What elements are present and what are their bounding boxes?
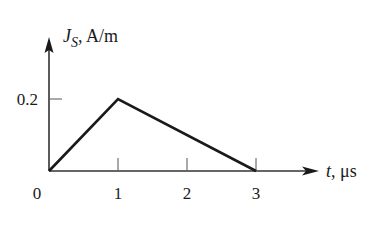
x-axis-label: t, μs [326,161,357,181]
y-axis-unit: , A/m [78,26,118,46]
x-tick-label-1: 1 [114,184,123,203]
y-axis-subscript: S [71,35,78,50]
x-tick-label-3: 3 [252,184,261,203]
y-axis-label: JS, A/m [63,26,118,50]
chart: 0 1 2 3 0.2 JS, A/m t, μs [0,0,376,227]
x-tick-label-2: 2 [183,184,192,203]
data-line [49,99,256,171]
x-axis-unit: , μs [331,161,357,181]
x-tick-label-0: 0 [33,184,42,203]
y-tick-label-0.2: 0.2 [17,90,38,109]
